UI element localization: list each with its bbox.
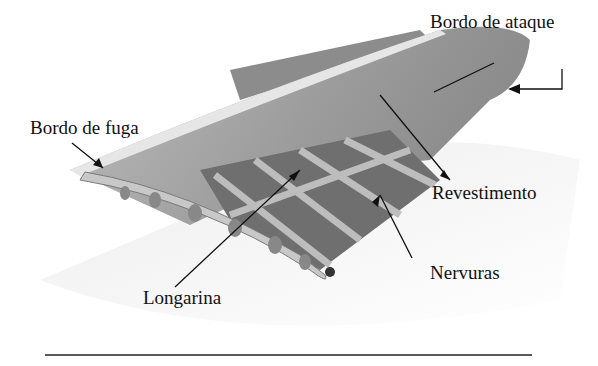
label-skin: Revestimento [432,183,536,202]
label-spar: Longarina [143,288,221,307]
label-ribs: Nervuras [430,263,500,282]
wing-diagram: Bordo de ataque Bordo de fuga Revestimen… [0,0,598,366]
label-leading-edge: Bordo de ataque [430,12,555,31]
label-trailing-edge: Bordo de fuga [30,118,139,137]
